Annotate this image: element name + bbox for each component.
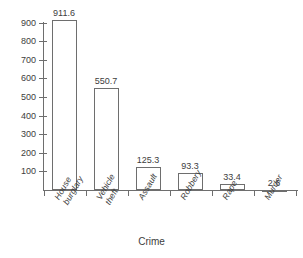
x-tick-mark	[170, 191, 171, 196]
bar-chart: 100200300400500600700800900 911.6550.712…	[0, 0, 303, 258]
y-tick-mark	[39, 116, 47, 117]
y-tick-label: 600	[5, 74, 36, 83]
x-tick-mark	[254, 191, 255, 196]
x-axis-title: Crime	[0, 236, 303, 247]
y-tick-label: 400	[5, 112, 36, 121]
x-tick-mark	[86, 191, 87, 196]
y-tick-label: 800	[5, 37, 36, 46]
y-tick-mark	[39, 78, 47, 79]
y-tick-mark	[39, 60, 47, 61]
x-tick-mark	[212, 191, 213, 196]
y-axis-line	[43, 22, 44, 191]
y-tick-mark	[39, 153, 47, 154]
y-tick-mark	[39, 134, 47, 135]
x-tick-mark	[296, 191, 297, 196]
y-tick-mark	[39, 23, 47, 24]
y-tick-label: 300	[5, 130, 36, 139]
y-tick-mark	[39, 41, 47, 42]
y-tick-mark	[39, 171, 47, 172]
y-tick-label: 500	[5, 93, 36, 102]
x-tick-mark	[44, 191, 45, 196]
bar-value-label: 911.6	[43, 9, 86, 18]
y-tick-label: 200	[5, 149, 36, 158]
y-tick-mark	[39, 97, 47, 98]
x-tick-mark	[128, 191, 129, 196]
bar	[52, 20, 77, 190]
bar-value-label: 93.3	[169, 162, 212, 171]
plot-area: 100200300400500600700800900 911.6550.712…	[0, 0, 303, 258]
y-tick-label: 700	[5, 56, 36, 65]
y-tick-label: 100	[5, 167, 36, 176]
y-tick-label: 900	[5, 19, 36, 28]
bar-value-label: 125.3	[127, 156, 170, 165]
bar-value-label: 550.7	[85, 77, 128, 86]
